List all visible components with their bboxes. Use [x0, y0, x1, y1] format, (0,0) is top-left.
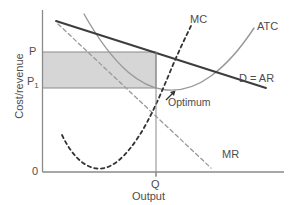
series-label-d-ar: D = AR: [239, 73, 274, 84]
x-tick-label-q: Q: [151, 179, 160, 190]
series-label-mr: MR: [222, 149, 239, 160]
chart-plot-area: [0, 0, 289, 205]
chart-figure: Cost/revenue P P1 0 Q Output MC ATC D = …: [0, 0, 289, 205]
optimum-annotation: Optimum: [168, 97, 211, 108]
x-axis-title: Output: [132, 191, 165, 202]
y-axis-title: Cost/revenue: [13, 41, 25, 131]
supernormal-profit-rectangle: [43, 52, 157, 88]
series-label-mc: MC: [190, 14, 207, 25]
y-tick-subscript: 1: [34, 81, 38, 90]
y-tick-label-p1: P1: [27, 76, 39, 90]
origin-label: 0: [32, 166, 38, 177]
series-label-atc: ATC: [257, 21, 278, 32]
y-tick-label-p: P: [29, 46, 36, 57]
